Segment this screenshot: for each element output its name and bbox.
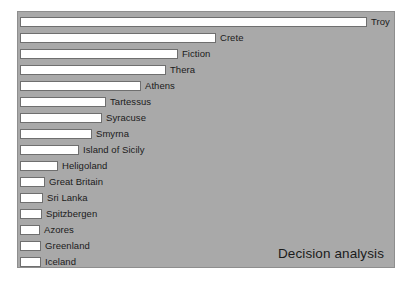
bar bbox=[20, 225, 40, 235]
chart-panel: TroyCreteFictionTheraAthensTartessusSyra… bbox=[17, 11, 395, 268]
bar bbox=[20, 161, 58, 171]
bar-series: TroyCreteFictionTheraAthensTartessusSyra… bbox=[18, 12, 394, 267]
bar-label: Troy bbox=[371, 14, 390, 30]
bar bbox=[20, 97, 106, 107]
bar-label: Athens bbox=[145, 78, 175, 94]
bar bbox=[20, 257, 41, 267]
bar-label: Heligoland bbox=[62, 158, 107, 174]
bar-label: Crete bbox=[220, 30, 243, 46]
bar bbox=[20, 209, 42, 219]
bar-label: Azores bbox=[44, 222, 74, 238]
bar bbox=[20, 33, 216, 43]
bar bbox=[20, 129, 92, 139]
bar-label: Syracuse bbox=[106, 110, 146, 126]
bar-label: Thera bbox=[170, 62, 195, 78]
bar bbox=[20, 49, 178, 59]
chart-watermark: Decision analysis bbox=[278, 246, 384, 261]
bar-label: Tartessus bbox=[110, 94, 151, 110]
bar-label: Fiction bbox=[182, 46, 210, 62]
bar-label: Iceland bbox=[45, 254, 76, 270]
bar-label: Great Britain bbox=[49, 174, 103, 190]
bar bbox=[20, 241, 41, 251]
bar-label: Smyrna bbox=[96, 126, 129, 142]
bar bbox=[20, 177, 45, 187]
bar bbox=[20, 81, 141, 91]
bar bbox=[20, 113, 102, 123]
bar-label: Spitzbergen bbox=[46, 206, 97, 222]
bar bbox=[20, 193, 43, 203]
bar-label: Sri Lanka bbox=[47, 190, 88, 206]
bar bbox=[20, 145, 79, 155]
bar bbox=[20, 17, 367, 27]
bar-label: Greenland bbox=[45, 238, 90, 254]
bar bbox=[20, 65, 166, 75]
bar-label: Island of Sicily bbox=[83, 142, 145, 158]
